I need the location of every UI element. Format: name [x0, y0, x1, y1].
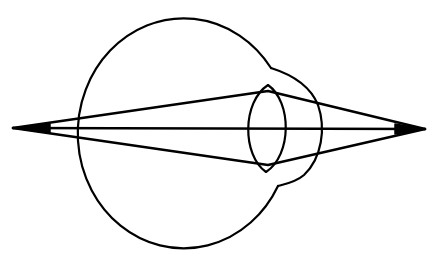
diagram-canvas	[0, 0, 439, 259]
ray-axis	[13, 128, 425, 129]
cornea-outline	[271, 68, 322, 186]
eye-ray-diagram	[0, 0, 439, 259]
ray-bottom	[13, 128, 425, 165]
ray-top	[13, 91, 425, 129]
